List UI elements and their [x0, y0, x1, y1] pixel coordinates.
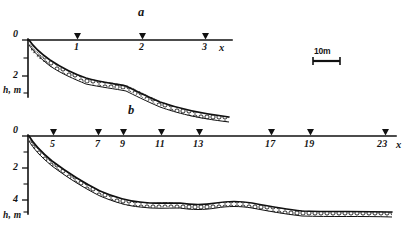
- panel-b-tick-marker-23: [382, 129, 389, 136]
- panel-b-fill-band: [29, 136, 392, 217]
- panel-b-tick-marker-11: [158, 129, 165, 136]
- figure-svg: [0, 0, 414, 233]
- panel-b-tick-marker-17: [268, 129, 275, 136]
- panel-a-label: a: [138, 6, 144, 19]
- panel-b-ytick-label-4: 4: [13, 194, 18, 204]
- panel-b-tick-marker-5: [50, 129, 57, 136]
- panel-a-y-axis-label: h, m: [3, 86, 21, 96]
- panel-b-xtick-label-11: 11: [155, 139, 165, 149]
- panel-a-ytick-label-0: 0: [13, 29, 18, 39]
- scale-bar-label: 10m: [314, 47, 330, 56]
- panel-b-group: [22, 129, 396, 217]
- panel-b-xtick-label-19: 19: [304, 139, 314, 149]
- panel-b-ytick-label-0: 0: [13, 125, 18, 135]
- panel-b-x-axis-label: x: [396, 140, 401, 151]
- panel-b-xtick-label-13: 13: [193, 139, 203, 149]
- panel-a-ytick-label-2: 2: [13, 70, 18, 80]
- panel-b-label: b: [128, 104, 134, 117]
- panel-b-y-axis-label: h, m: [3, 211, 21, 221]
- panel-b-xtick-label-17: 17: [265, 139, 275, 149]
- panel-b-tick-marker-19: [307, 129, 314, 136]
- panel-a-group: [22, 33, 232, 122]
- panel-a-tick-marker-1: [74, 33, 81, 40]
- panel-b-xtick-label-9: 9: [120, 139, 125, 149]
- panel-b-xtick-label-23: 23: [377, 139, 387, 149]
- panel-a-x-axis-label: x: [219, 43, 224, 54]
- panel-a-tick-marker-2: [139, 33, 146, 40]
- panel-b-tick-marker-9: [120, 129, 127, 136]
- panel-b-xtick-label-5: 5: [50, 139, 55, 149]
- panel-a-xtick-label-2: 2: [139, 42, 144, 52]
- scale-bar-group: [313, 57, 340, 65]
- panel-b-xtick-label-7: 7: [95, 139, 100, 149]
- panel-a-xtick-label-3: 3: [202, 42, 207, 52]
- panel-b-profile-line: [29, 136, 392, 212]
- panel-b-tick-marker-7: [95, 129, 102, 136]
- panel-b-tick-marker-13: [196, 129, 203, 136]
- panel-a-tick-marker-3: [202, 33, 209, 40]
- figure-container: a 0 2 h, m 1 2 3 x 10m b 0 2 4 h, m 5 7 …: [0, 0, 414, 233]
- panel-b-ytick-label-2: 2: [13, 162, 18, 172]
- panel-a-xtick-label-1: 1: [74, 42, 79, 52]
